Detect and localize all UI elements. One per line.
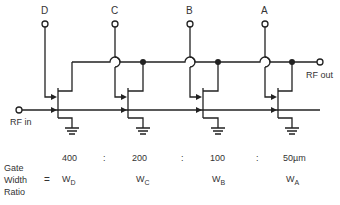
junction-dot [140,59,146,65]
ratio-heading-ratio: Ratio [4,188,25,197]
control-wire-d [45,27,55,97]
terminal-c [112,21,118,27]
ratio-heading-gate: Gate [4,164,24,173]
w-symbol-c: WC [136,175,150,184]
terminal-b [187,21,193,27]
gate-arrow [51,94,57,100]
gate-arrow [121,94,127,100]
label-a: A [261,6,268,16]
w-symbol-a: WA [286,175,299,184]
terminal-d [42,21,48,27]
ratio-value-b: 100 [210,154,225,163]
ratio-heading-width: Width [4,176,27,185]
label-rf-out: RF out [306,71,333,80]
transistor-a [278,62,292,128]
label-b: B [186,6,193,16]
terminal-a [262,21,268,27]
ratio-separator: : [103,154,106,163]
junction-dot [215,59,221,65]
gate-arrow [196,94,202,100]
ratio-value-c: 200 [132,154,147,163]
transistor-c [128,62,143,128]
w-symbol-d: WD [62,175,76,184]
terminal-rf-out [317,59,323,65]
label-rf-in: RF in [10,118,32,127]
w-symbol-b: WB [212,175,225,184]
gate-arrow [121,107,127,113]
label-d: D [41,6,48,16]
gate-arrow [271,107,277,113]
ratio-value-d: 400 [62,154,77,163]
gate-arrow [51,107,57,113]
junction-dot [289,59,295,65]
ratio-separator: : [256,154,259,163]
gate-arrow [271,94,277,100]
terminal-rf-in [16,107,22,113]
transistor-b [203,62,218,128]
ratio-value-a: 50µm [283,154,306,163]
ratio-separator: : [181,154,184,163]
gate-arrow [196,107,202,113]
transistor-d [58,62,72,128]
ground-icon [65,128,299,134]
ratio-equals: = [44,175,50,185]
label-c: C [111,6,118,16]
